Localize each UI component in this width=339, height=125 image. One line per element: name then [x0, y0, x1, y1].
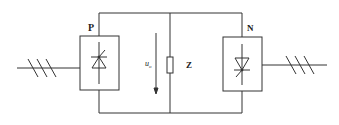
resistor-icon [167, 57, 173, 73]
converter-n-label: N [247, 23, 254, 33]
converter-p-label: P [88, 22, 94, 33]
voltage-subscript: o [149, 64, 152, 69]
arrow-down-icon [154, 88, 158, 94]
load-label: Z [186, 60, 192, 70]
converter-circuit-diagram: P N Z uo [0, 0, 339, 125]
three-phase-line-left-icon [17, 59, 80, 77]
three-phase-line-right-icon [262, 56, 327, 74]
voltage-label: uo [145, 59, 152, 69]
